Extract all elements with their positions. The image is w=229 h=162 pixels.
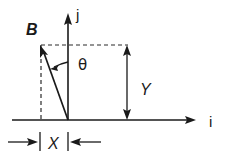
vector-diagram-figure: B θ i j X Y: [0, 0, 229, 162]
angle-arc: [54, 62, 68, 67]
angle-arc-arrowhead: [50, 65, 59, 71]
vector-components-diagram: B θ i j X Y: [0, 0, 229, 162]
vertical-axis-label: j: [75, 6, 79, 23]
vector-b-arrowhead: [40, 45, 48, 58]
angle-theta-label: θ: [78, 56, 87, 74]
x-component-label: X: [47, 135, 60, 152]
vector-b-label: B: [26, 21, 38, 38]
y-component-label: Y: [140, 81, 152, 98]
horizontal-axis-label: i: [209, 113, 212, 130]
